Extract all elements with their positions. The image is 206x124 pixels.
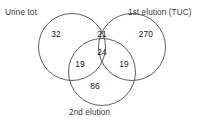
set-label-urine-tot: Urine tot (5, 8, 37, 17)
set-label-second-elution: 2nd elution (69, 108, 110, 117)
circle-urine-tot (39, 14, 106, 81)
region-value-first-second: 19 (119, 59, 129, 69)
region-value-urine-first: 21 (97, 29, 107, 39)
region-value-urine-second: 19 (75, 59, 85, 69)
region-value-first-only: 270 (139, 29, 153, 39)
venn-diagram-figure: Urine tot 1st elution (TUC) 2nd elution … (0, 0, 206, 124)
circle-first-elution (99, 14, 166, 81)
venn-circles (0, 0, 206, 124)
region-value-all-three: 24 (97, 47, 107, 57)
region-value-urine-only: 32 (51, 29, 61, 39)
set-label-first-elution: 1st elution (TUC) (128, 8, 192, 17)
region-value-second-only: 86 (90, 81, 100, 91)
